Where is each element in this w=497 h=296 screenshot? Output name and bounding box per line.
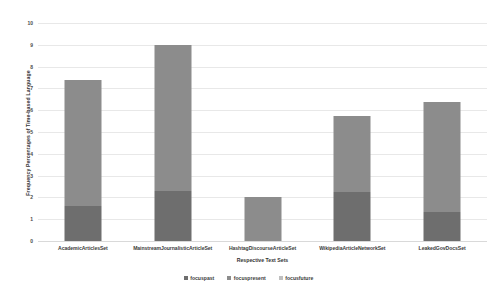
legend-label: focuspresent <box>234 275 266 281</box>
legend-item-focuspast[interactable]: focuspast <box>184 275 215 281</box>
y-axis-tick-label: 10 <box>27 20 33 26</box>
legend-swatch-icon <box>184 276 188 280</box>
x-axis-tick-label: MainstreamJournalisticArticleSet <box>133 245 212 251</box>
y-axis-tick-label: 7 <box>30 85 33 91</box>
legend-item-focuspresent[interactable]: focuspresent <box>227 275 266 281</box>
gridline: 0 <box>38 241 487 242</box>
y-axis-tick-label: 8 <box>30 64 33 70</box>
x-axis-tick-label: LeakedGovDocsSet <box>419 245 466 251</box>
legend-swatch-icon <box>227 276 231 280</box>
bar-segment-focuspast[interactable] <box>154 191 191 241</box>
x-axis-title: Respective Text Sets <box>38 257 487 263</box>
x-axis-tick-labels: AcademicArticlesSetMainstreamJournalisti… <box>38 245 487 257</box>
legend-swatch-icon <box>279 276 283 280</box>
bar-segment-focuspresent[interactable] <box>424 102 461 212</box>
chart-legend: focuspastfocuspresentfocusfuture <box>0 275 497 281</box>
bar-segment-focuspresent[interactable] <box>64 80 101 206</box>
y-axis-tick-label: 3 <box>30 173 33 179</box>
bar-group[interactable] <box>244 197 281 241</box>
y-axis-tick-label: 0 <box>30 238 33 244</box>
bar-segment-focuspresent[interactable] <box>244 197 281 241</box>
bar-group[interactable] <box>334 116 371 241</box>
bar-group[interactable] <box>154 45 191 241</box>
bar-group[interactable] <box>64 80 101 241</box>
chart-container: Frequency Percentages of Time-based Lang… <box>0 0 497 296</box>
x-axis-tick-label: WikipediaArticleNetworkSet <box>319 245 385 251</box>
bars-layer <box>38 23 487 241</box>
legend-label: focuspast <box>190 275 214 281</box>
legend-item-focusfuture[interactable]: focusfuture <box>279 275 314 281</box>
bar-segment-focuspresent[interactable] <box>334 116 371 192</box>
y-axis-tick-label: 4 <box>30 151 33 157</box>
x-axis-tick-label: AcademicArticlesSet <box>58 245 108 251</box>
y-axis-tick-label: 6 <box>30 107 33 113</box>
bar-segment-focuspast[interactable] <box>334 192 371 241</box>
bar-group[interactable] <box>424 102 461 242</box>
x-axis-tick-label: HashtagDiscourseArticleSet <box>229 245 296 251</box>
plot-area: 012345678910 <box>38 23 487 241</box>
bar-segment-focuspast[interactable] <box>64 206 101 241</box>
legend-label: focusfuture <box>285 275 313 281</box>
bar-segment-focuspresent[interactable] <box>154 45 191 191</box>
bar-segment-focuspast[interactable] <box>424 212 461 241</box>
y-axis-tick-label: 2 <box>30 194 33 200</box>
y-axis-tick-label: 9 <box>30 42 33 48</box>
y-axis-tick-label: 5 <box>30 129 33 135</box>
y-axis-tick-label: 1 <box>30 216 33 222</box>
